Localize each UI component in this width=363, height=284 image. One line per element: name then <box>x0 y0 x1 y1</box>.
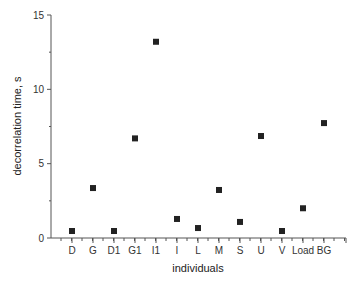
data-point-s <box>237 219 243 225</box>
x-tick-label: Load <box>292 245 314 256</box>
data-point-d1 <box>111 228 117 234</box>
data-point-bg <box>321 120 327 126</box>
x-tick-label: I1 <box>152 245 161 256</box>
x-tick-label: M <box>215 245 223 256</box>
y-tick-label: 10 <box>33 84 45 95</box>
y-tick-label: 15 <box>33 10 45 21</box>
y-axis-ticks: 051015 <box>33 10 51 244</box>
x-tick-label: U <box>257 245 264 256</box>
x-tick-label: L <box>195 245 201 256</box>
x-tick-label: G <box>89 245 97 256</box>
data-point-g <box>90 185 96 191</box>
x-tick-label: S <box>237 245 244 256</box>
data-point-u <box>258 133 264 139</box>
x-tick-label: D1 <box>108 245 121 256</box>
x-tick-label: BG <box>317 245 332 256</box>
data-points <box>69 39 327 234</box>
scatter-chart: 051015 DGD1G1I1ILMSUVLoadBG individuals … <box>0 0 363 284</box>
y-tick-label: 5 <box>38 158 44 169</box>
axes <box>51 15 346 238</box>
data-point-i1 <box>153 39 159 45</box>
data-point-i <box>174 216 180 222</box>
data-point-g1 <box>132 135 138 141</box>
y-axis-title: decorrelation time, s <box>11 76 23 176</box>
data-point-v <box>279 228 285 234</box>
data-point-d <box>69 228 75 234</box>
x-tick-label: G1 <box>128 245 142 256</box>
x-tick-label: D <box>68 245 75 256</box>
x-tick-label: I <box>176 245 179 256</box>
data-point-l <box>195 225 201 231</box>
x-axis-ticks: DGD1G1I1ILMSUVLoadBG <box>61 238 346 256</box>
x-axis-title: individuals <box>172 262 224 274</box>
x-tick-label: V <box>279 245 286 256</box>
data-point-load <box>300 205 306 211</box>
data-point-m <box>216 187 222 193</box>
y-tick-label: 0 <box>38 233 44 244</box>
